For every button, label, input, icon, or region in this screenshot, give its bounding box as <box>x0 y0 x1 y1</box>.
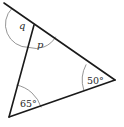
extended-top-edge <box>4 3 115 80</box>
triangle-diagram: q p 50° 65° <box>0 0 124 127</box>
angle-label-q: q <box>19 20 25 31</box>
angle-label-50: 50° <box>87 75 104 86</box>
angle-label-65: 65° <box>20 98 37 109</box>
angle-label-p: p <box>37 39 44 50</box>
angle-arc-50 <box>82 64 86 90</box>
